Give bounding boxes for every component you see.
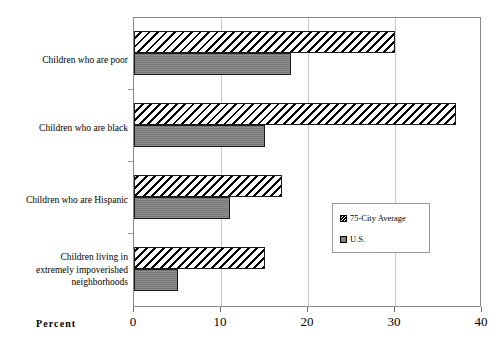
bar-us-black [134, 125, 265, 147]
category-label-impoverished-neighborhoods: Children living in extremely impoverishe… [8, 251, 128, 289]
bar-us-hispanic [134, 197, 230, 219]
x-axis-label-0: 0 [113, 315, 153, 329]
gridline-20 [308, 18, 309, 306]
x-axis-tick-20 [307, 307, 308, 312]
x-axis-label-40: 40 [461, 315, 500, 329]
category-label-line: neighborhoods [8, 276, 128, 289]
bar-us-impoverished [134, 269, 178, 291]
legend-entry-us: U.S. [340, 234, 365, 244]
category-label-line: Children who are black [8, 122, 128, 135]
category-label-line: extremely impoverished [8, 264, 128, 277]
bar-75city-impoverished [134, 247, 265, 269]
category-label-hispanic: Children who are Hispanic [8, 194, 128, 207]
bar-chart: Children who are poor Children who are b… [0, 0, 500, 345]
bar-us-poor [134, 53, 291, 75]
category-label-poor: Children who are poor [8, 54, 128, 67]
legend: 75-City Average U.S. [332, 203, 430, 253]
category-label-line: Children who are poor [8, 54, 128, 67]
category-label-line: Children living in [8, 251, 128, 264]
x-axis-tick-40 [481, 307, 482, 312]
legend-label: U.S. [350, 234, 365, 244]
x-axis-tick-10 [220, 307, 221, 312]
x-axis-label-20: 20 [287, 315, 327, 329]
bar-75city-black [134, 103, 456, 125]
x-axis-tick-0 [133, 307, 134, 312]
category-label-black: Children who are black [8, 122, 128, 135]
bar-75city-hispanic [134, 175, 282, 197]
plot-area [133, 17, 481, 307]
gray-square-icon [340, 236, 347, 243]
x-axis-label-10: 10 [200, 315, 240, 329]
category-label-line: Children who are Hispanic [8, 194, 128, 207]
legend-entry-75city: 75-City Average [340, 213, 406, 223]
x-axis-title: Percent [36, 318, 76, 329]
legend-label: 75-City Average [350, 213, 406, 223]
hatched-square-icon [340, 215, 347, 222]
x-axis-label-30: 30 [374, 315, 414, 329]
x-axis-tick-30 [394, 307, 395, 312]
gridline-30 [395, 18, 396, 306]
bar-75city-poor [134, 31, 395, 53]
